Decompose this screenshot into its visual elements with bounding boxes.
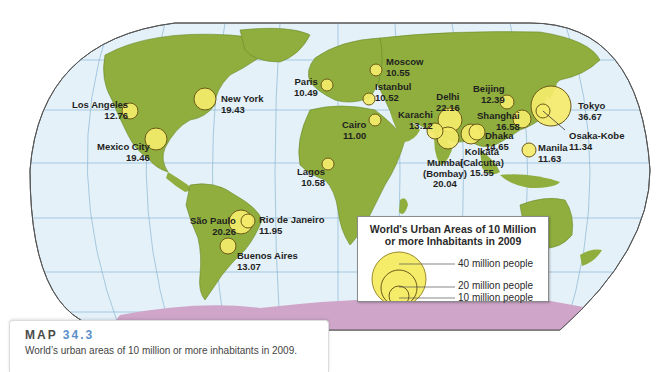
legend-label-10m: 10 million people [458, 292, 533, 303]
label-paris: Paris10.49 [294, 77, 318, 98]
label-delhi: Delhi22.16 [436, 92, 460, 113]
label-lagos: Lagos10.58 [297, 167, 325, 188]
circle-cairo [369, 114, 381, 126]
map-legend: World's Urban Areas of 10 Million or mor… [357, 216, 549, 302]
legend-label-40m: 40 million people [458, 258, 533, 269]
label-dhaka: Dhaka14.65 [485, 131, 514, 152]
label-sao-paulo: São Paulo20.26 [190, 216, 236, 237]
label-moscow: Moscow10.55 [386, 57, 423, 78]
label-rio-de-janeiro: Rio de Janeiro11.95 [259, 215, 324, 236]
label-cairo: Cairo11.00 [342, 120, 366, 141]
label-osaka-kobe: Osaka-Kobe11.34 [569, 131, 624, 152]
circle-istanbul [363, 93, 375, 105]
circle-manila [522, 143, 536, 157]
label-karachi: Karachi13.12 [398, 110, 433, 131]
label-shanghai: Shanghai16.58 [477, 111, 520, 132]
caption-heading: MAP 34.3 [25, 328, 94, 342]
circle-paris [321, 79, 333, 91]
caption-description: World’s urban areas of 10 million or mor… [25, 345, 297, 356]
circle-buenos-aires [220, 238, 236, 254]
label-new-york: New York19.43 [221, 94, 263, 115]
circle-tokyo [531, 86, 571, 126]
legend-label-20m: 20 million people [458, 280, 533, 291]
map-caption: MAP 34.3 World’s urban areas of 10 milli… [9, 320, 329, 372]
label-mexico-city: Mexico City19.46 [97, 142, 150, 163]
label-manila: Manila11.63 [538, 143, 568, 164]
circle-moscow [370, 64, 382, 76]
label-beijing: Beijing12.39 [473, 84, 505, 105]
label-tokyo: Tokyo36.67 [578, 101, 605, 122]
circle-rio-de-janeiro [241, 214, 255, 228]
label-los-angeles: Los Angeles12.76 [72, 100, 128, 121]
label-istanbul: Istanbul10.52 [375, 82, 411, 103]
circle-new-york [194, 88, 216, 110]
label-buenos-aires: Buenos Aires13.07 [237, 251, 298, 272]
